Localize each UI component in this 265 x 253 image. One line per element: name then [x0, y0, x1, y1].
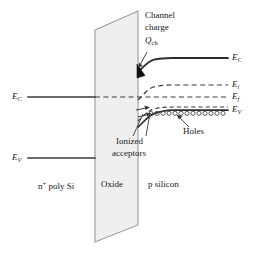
ionized-acceptors-label-line1: Ionized	[116, 136, 143, 147]
right-valence-band-label: EV	[232, 104, 241, 117]
region-label-poly-si: n+ poly Si	[38, 179, 74, 192]
right-conduction-band-curve	[138, 58, 228, 72]
oxide-region	[95, 11, 138, 242]
right-intrinsic-level-curve	[138, 85, 228, 100]
channel-charge-symbol-label: Qch	[145, 35, 158, 48]
region-label-oxide: Oxide	[101, 179, 123, 190]
holes-label: Holes	[183, 126, 204, 137]
left-valence-band-label: EV	[12, 152, 21, 165]
region-label-p-silicon: p silicon	[148, 179, 179, 190]
channel-charge-label-line1: Channel	[145, 10, 175, 21]
mos-band-diagram-figure: EC EV EC Ei Ef EV Channel charge Qch Hol…	[0, 0, 265, 253]
right-fermi-level-label: Ef	[232, 91, 239, 104]
right-conduction-band-label: EC	[232, 52, 242, 65]
band-diagram-canvas	[0, 0, 265, 253]
ionized-acceptors-arrowhead-upper	[144, 106, 150, 110]
channel-charge-label-line2: charge	[145, 22, 169, 33]
left-conduction-band-label: EC	[12, 91, 22, 104]
ionized-acceptors-label-line2: acceptors	[112, 148, 146, 159]
